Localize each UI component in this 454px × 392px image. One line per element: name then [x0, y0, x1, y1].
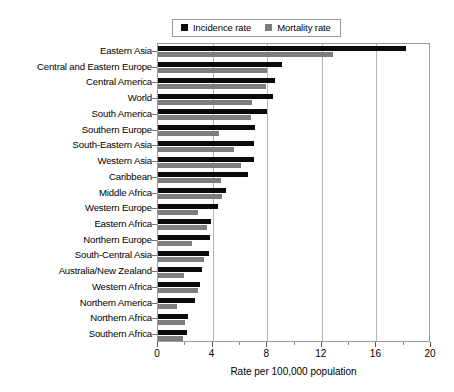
category-label: Eastern Asia: [0, 46, 152, 56]
y-axis-tick: [152, 145, 157, 146]
bar-mortality: [158, 178, 221, 183]
bar-mortality: [158, 320, 185, 325]
category-label: Western Asia: [0, 156, 152, 166]
y-axis-tick: [152, 334, 157, 335]
y-axis-tick: [152, 114, 157, 115]
chart-container: Incidence rate Mortality rate Eastern As…: [0, 0, 454, 392]
bar-mortality: [158, 210, 198, 215]
y-axis-tick: [152, 303, 157, 304]
category-label: South-Central Asia: [0, 250, 152, 260]
category-label: Northern America: [0, 298, 152, 308]
bar-group: [158, 327, 429, 343]
legend-entry-mortality: Mortality rate: [265, 23, 331, 33]
bar-group: [158, 217, 429, 233]
x-tick-major-0: [157, 342, 158, 347]
category-label: South America: [0, 109, 152, 119]
bar-incidence: [158, 109, 267, 114]
category-label: Southern Europe: [0, 125, 152, 135]
category-label: South-Eastern Asia: [0, 140, 152, 150]
category-axis-labels: Eastern AsiaCentral and Eastern EuropeCe…: [0, 43, 152, 342]
bar-mortality: [158, 225, 207, 230]
category-label: Caribbean: [0, 172, 152, 182]
x-tick-major-16: [375, 342, 376, 347]
bar-mortality: [158, 336, 183, 341]
bar-group: [158, 312, 429, 328]
x-tick-minor-6: [239, 342, 240, 345]
legend-swatch-mortality-icon: [265, 24, 272, 31]
bar-mortality: [158, 163, 241, 168]
x-tick-label: 4: [209, 348, 215, 359]
x-tick-minor-2: [184, 342, 185, 345]
y-axis-tick: [152, 67, 157, 68]
bar-incidence: [158, 94, 273, 99]
bar-group: [158, 75, 429, 91]
bar-mortality: [158, 115, 251, 120]
bar-mortality: [158, 84, 266, 89]
bar-mortality: [158, 304, 177, 309]
y-axis-tick: [152, 161, 157, 162]
bar-mortality: [158, 257, 204, 262]
bar-group: [158, 154, 429, 170]
bar-incidence: [158, 188, 226, 193]
bar-group: [158, 60, 429, 76]
bar-group: [158, 91, 429, 107]
bar-mortality: [158, 241, 192, 246]
bar-incidence: [158, 157, 254, 162]
bar-incidence: [158, 267, 202, 272]
bar-incidence: [158, 125, 255, 130]
bar-group: [158, 264, 429, 280]
bar-incidence: [158, 330, 187, 335]
category-label: Western Europe: [0, 203, 152, 213]
bar-incidence: [158, 235, 210, 240]
bar-incidence: [158, 204, 218, 209]
bar-incidence: [158, 62, 282, 67]
bar-incidence: [158, 46, 406, 51]
bar-mortality: [158, 147, 234, 152]
category-label: Central and Eastern Europe: [0, 62, 152, 72]
bar-group: [158, 249, 429, 265]
category-label: Eastern Africa: [0, 219, 152, 229]
bar-incidence: [158, 141, 254, 146]
y-axis-tick: [152, 177, 157, 178]
category-label: Middle Africa: [0, 188, 152, 198]
bar-rows: [158, 44, 429, 341]
bar-mortality: [158, 52, 333, 57]
category-label: Northern Africa: [0, 313, 152, 323]
y-axis-tick: [152, 240, 157, 241]
category-label: Western Africa: [0, 282, 152, 292]
y-axis-tick: [152, 318, 157, 319]
x-axis-tick-labels: 048121620: [157, 348, 430, 362]
y-axis-tick: [152, 51, 157, 52]
category-label: Australia/New Zealand: [0, 266, 152, 276]
bar-incidence: [158, 314, 188, 319]
x-tick-label: 0: [154, 348, 160, 359]
x-tick-label: 8: [263, 348, 269, 359]
y-axis-tick: [152, 193, 157, 194]
y-axis-tick: [152, 255, 157, 256]
x-axis-title: Rate per 100,000 population: [157, 366, 430, 377]
x-tick-label: 12: [315, 348, 326, 359]
category-label: Central America: [0, 77, 152, 87]
legend-entry-incidence: Incidence rate: [181, 23, 251, 33]
x-tick-label: 16: [370, 348, 381, 359]
category-label: World: [0, 93, 152, 103]
y-axis-tick: [152, 224, 157, 225]
bar-group: [158, 138, 429, 154]
bar-group: [158, 44, 429, 60]
legend-label-incidence: Incidence rate: [193, 23, 251, 33]
bar-mortality: [158, 194, 222, 199]
x-tick-label: 20: [424, 348, 435, 359]
bar-incidence: [158, 282, 200, 287]
bar-incidence: [158, 298, 195, 303]
bar-group: [158, 170, 429, 186]
bar-incidence: [158, 219, 211, 224]
legend-swatch-incidence-icon: [181, 24, 188, 31]
category-label: Southern Africa: [0, 329, 152, 339]
y-axis-tick: [152, 287, 157, 288]
y-axis-tick: [152, 130, 157, 131]
plot-area: [157, 43, 430, 342]
x-tick-major-4: [212, 342, 213, 347]
x-tick-major-12: [321, 342, 322, 347]
bar-group: [158, 186, 429, 202]
bar-mortality: [158, 288, 198, 293]
